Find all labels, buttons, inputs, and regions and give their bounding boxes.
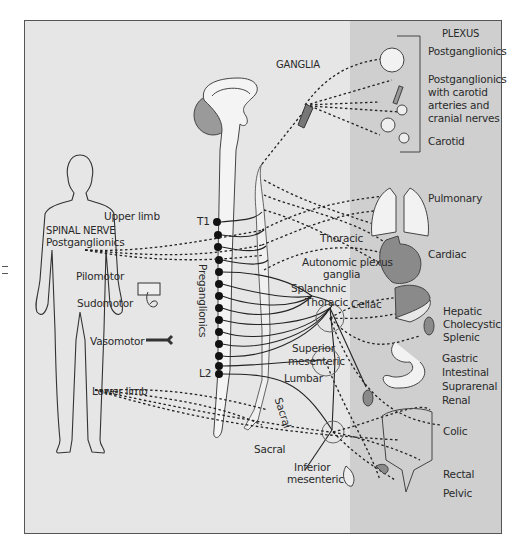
label-vasomotor: Vasomotor (90, 335, 144, 348)
label-autonomic-plexus-ganglia: ganglia (323, 268, 360, 281)
lungs-icon (372, 188, 429, 236)
plexus-header: PLEXUS (442, 27, 479, 40)
label-thoracic-upper: Thoracic (320, 232, 363, 245)
label-pelvic: Pelvic (443, 487, 472, 500)
label-superior-mesenteric-1: Superior (292, 342, 335, 355)
label-upper-limb: Upper limb (104, 210, 160, 223)
ganglia-header: GANGLIA (276, 58, 320, 71)
label-thoracic-lower: Thoracic (305, 296, 348, 309)
label-gastric: Gastric (442, 352, 478, 365)
sympathetic-chain-icon (244, 164, 270, 430)
label-lower-limb: Lower limb (92, 385, 148, 398)
colon-icon (382, 409, 432, 492)
eye-icon (380, 48, 404, 72)
kidney-icon (363, 390, 373, 406)
skin-hair-icon (138, 283, 160, 295)
label-l2: L2 (199, 367, 211, 380)
label-superior-mesenteric-2: mesenteric (288, 355, 345, 368)
label-splenic: Splenic (443, 331, 480, 344)
label-cardiac: Cardiac (428, 248, 466, 261)
label-renal: Renal (442, 394, 470, 407)
label-carotid: Carotid (428, 135, 465, 148)
label-with-carotid-3: arteries and (428, 99, 489, 112)
label-colic: Colic (443, 425, 467, 438)
label-celiac: Celiac (351, 298, 382, 311)
blood-vessel-icon (146, 336, 172, 344)
label-splanchnic: Splanchnic (291, 282, 346, 295)
label-rectal: Rectal (443, 468, 474, 481)
label-cholecystic: Cholecystic (443, 318, 501, 331)
label-with-carotid-2: with carotid (428, 86, 488, 99)
rectum-icon (344, 466, 354, 486)
carotid-artery-icon (393, 86, 403, 104)
label-sacral: Sacral (254, 443, 285, 456)
stomach-intestine-icon (383, 342, 425, 388)
gland-icon-3 (399, 133, 409, 143)
gland-icon (397, 105, 407, 115)
label-hepatic: Hepatic (443, 305, 482, 318)
label-pilomotor: Pilomotor (76, 270, 124, 283)
label-intestinal: Intestinal (442, 366, 489, 379)
label-t1: T1 (197, 215, 210, 228)
spleen-icon (424, 317, 434, 335)
label-with-carotid-1: Postganglionics (428, 73, 506, 86)
label-plexus-postganglionics: Postganglionics (428, 45, 506, 58)
label-suprarenal: Suprarenal (442, 380, 497, 393)
brain-spinal-cord-icon (194, 78, 257, 438)
label-with-carotid-4: cranial nerves (428, 112, 500, 125)
label-preganglionics: Preganglionics (196, 264, 209, 337)
label-inferior-mesenteric-2: mesenteric (287, 473, 344, 486)
label-pulmonary: Pulmonary (428, 192, 482, 205)
label-lumbar: Lumbar (284, 372, 323, 385)
gland-icon-2 (381, 118, 395, 132)
label-sudomotor: Sudomotor (77, 297, 133, 310)
label-spinal-postganglionics: Postganglionics (46, 236, 124, 249)
